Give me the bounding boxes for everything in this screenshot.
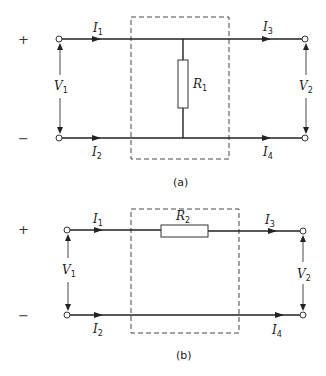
- arrow-right-icon: [275, 312, 284, 318]
- diagram-a: + − R1 I1 I2 I3 I4 V1: [18, 17, 313, 189]
- current-label-i3: I3: [262, 20, 273, 36]
- arrow-down-icon: [300, 304, 306, 311]
- voltage-label-v2: V2: [299, 79, 313, 95]
- voltage-label-v1: V1: [54, 79, 68, 95]
- arrow-up-icon: [303, 43, 309, 50]
- caption-a: (a): [173, 176, 188, 189]
- minus-sign: −: [18, 308, 29, 323]
- arrow-down-icon: [65, 304, 71, 311]
- voltage-label-v2: V2: [297, 267, 311, 283]
- circuit-diagrams: + − R1 I1 I2 I3 I4 V1: [0, 0, 326, 376]
- terminal-out-top: [300, 228, 306, 234]
- terminal-in-bottom: [64, 312, 70, 318]
- current-label-i3: I3: [264, 213, 275, 229]
- current-label-i4: I4: [271, 323, 282, 339]
- terminal-in-top: [56, 36, 62, 42]
- arrow-down-icon: [303, 127, 309, 134]
- minus-sign: −: [18, 131, 29, 146]
- resistor-r2: [161, 225, 208, 237]
- terminal-out-bottom: [300, 312, 306, 318]
- arrow-up-icon: [57, 43, 63, 50]
- terminal-in-bottom: [56, 135, 62, 141]
- terminal-out-bottom: [302, 135, 308, 141]
- current-label-i4: I4: [262, 145, 273, 161]
- plus-sign: +: [18, 32, 29, 47]
- arrow-right-icon: [92, 135, 101, 141]
- arrow-up-icon: [65, 234, 71, 241]
- arrow-up-icon: [300, 235, 306, 242]
- current-label-i1: I1: [92, 21, 103, 37]
- resistor-r1: [178, 60, 188, 108]
- diagram-b: + − R2 I1 I2 I3 I4 V1: [18, 209, 311, 362]
- plus-sign: +: [18, 222, 29, 237]
- resistor-label: R1: [192, 77, 207, 93]
- current-label-i1: I1: [92, 212, 103, 228]
- terminal-in-top: [64, 227, 70, 233]
- arrow-right-icon: [262, 135, 271, 141]
- terminal-out-top: [302, 36, 308, 42]
- current-label-i2: I2: [92, 322, 103, 338]
- resistor-label: R2: [175, 209, 190, 225]
- current-label-i2: I2: [91, 145, 102, 161]
- arrow-down-icon: [57, 127, 63, 134]
- arrow-right-icon: [262, 36, 271, 42]
- arrow-right-icon: [94, 312, 103, 318]
- voltage-label-v1: V1: [62, 263, 76, 279]
- caption-b: (b): [176, 349, 192, 362]
